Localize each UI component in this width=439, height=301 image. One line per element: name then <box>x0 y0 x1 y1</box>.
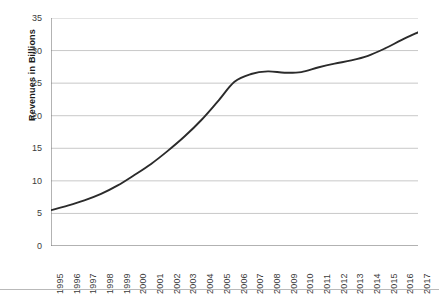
x-tick-label: 2009 <box>289 273 299 294</box>
plot-area <box>51 18 418 246</box>
x-tick-label: 2016 <box>405 273 415 294</box>
chart-figure: Revenues in Billions 05101520253035 1995… <box>0 0 439 301</box>
x-tick-label: 2012 <box>339 273 349 294</box>
gridlines <box>51 18 418 246</box>
x-tick-label: 2004 <box>205 273 215 294</box>
x-tick-label: 1996 <box>72 273 82 294</box>
y-axis-tick-labels: 05101520253035 <box>14 0 46 301</box>
data-series-line <box>51 32 418 210</box>
x-tick-label: 2001 <box>155 273 165 294</box>
x-tick-label: 1997 <box>88 273 98 294</box>
x-tick-label: 1995 <box>55 273 65 294</box>
x-tick-label: 2002 <box>172 273 182 294</box>
x-tick-label: 2013 <box>355 273 365 294</box>
y-tick-label: 5 <box>14 208 46 218</box>
x-tick-label: 2008 <box>272 273 282 294</box>
x-tick-label: 1999 <box>122 273 132 294</box>
x-tick-label: 2007 <box>255 273 265 294</box>
y-tick-label: 10 <box>14 176 46 186</box>
footer-divider <box>0 289 439 290</box>
y-tick-label: 20 <box>14 111 46 121</box>
y-tick-label: 0 <box>14 241 46 251</box>
x-tick-label: 2006 <box>239 273 249 294</box>
x-tick-label: 2011 <box>322 274 332 294</box>
x-tick-label: 1998 <box>105 273 115 294</box>
x-tick-label: 2017 <box>422 273 432 294</box>
x-tick-label: 2000 <box>138 273 148 294</box>
y-tick-label: 15 <box>14 143 46 153</box>
y-tick-label: 30 <box>14 46 46 56</box>
x-axis-tick-labels: 1995199619971998199920002001200220032004… <box>51 250 418 298</box>
chart-svg <box>51 18 418 246</box>
x-tick-label: 2015 <box>389 273 399 294</box>
x-tick-label: 2014 <box>372 273 382 294</box>
x-tick-label: 2010 <box>305 273 315 294</box>
x-tick-label: 2005 <box>222 273 232 294</box>
x-tick-label: 2003 <box>188 273 198 294</box>
y-tick-label: 25 <box>14 78 46 88</box>
y-tick-label: 35 <box>14 13 46 23</box>
